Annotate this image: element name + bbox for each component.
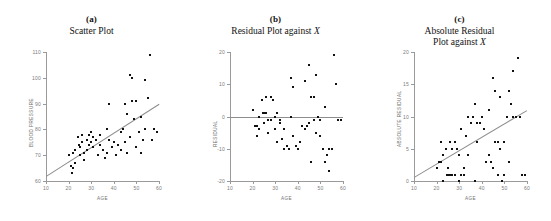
data-point <box>290 77 292 79</box>
data-point <box>440 141 442 143</box>
y-tick <box>411 84 414 85</box>
data-point <box>279 119 281 121</box>
y-tick <box>411 52 414 53</box>
data-point <box>108 139 110 141</box>
data-point <box>319 119 321 121</box>
data-point <box>472 116 474 118</box>
x-tick-label: 50 <box>313 185 327 191</box>
data-point <box>488 109 490 111</box>
data-point <box>272 99 274 101</box>
data-point <box>120 131 122 133</box>
y-tick-label: 70 <box>27 152 41 158</box>
y-tick <box>227 52 230 53</box>
data-point <box>144 79 146 81</box>
figure-scatter-residual-panels: (a)Scatter Plot6070809010011010203040506… <box>0 0 551 221</box>
y-tick-label: 20 <box>211 49 225 55</box>
data-point <box>442 154 444 156</box>
y-axis-title: RESIDUAL <box>213 120 218 147</box>
x-tick-label: 10 <box>39 185 53 191</box>
data-point <box>508 161 510 163</box>
x-tick <box>414 181 415 184</box>
data-point <box>306 125 308 127</box>
plot-area: -20-1001020102030405060 <box>230 52 343 181</box>
data-point <box>326 154 328 156</box>
data-point <box>122 128 124 130</box>
data-point <box>74 149 76 151</box>
data-point <box>456 148 458 150</box>
data-point <box>440 161 442 163</box>
data-point <box>86 139 88 141</box>
data-point <box>131 77 133 79</box>
y-tick-label: 20 <box>395 49 409 55</box>
data-point <box>492 77 494 79</box>
data-point <box>135 146 137 148</box>
data-point <box>274 116 276 118</box>
data-point <box>97 154 99 156</box>
y-tick <box>411 117 414 118</box>
x-tick <box>320 181 321 184</box>
data-point <box>317 116 319 118</box>
y-tick-label: 0 <box>395 178 409 184</box>
y-tick-label: 10 <box>211 81 225 87</box>
data-point <box>261 99 263 101</box>
x-axis-title: AGE <box>277 196 297 201</box>
data-point <box>115 154 117 156</box>
data-point <box>479 122 481 124</box>
data-point <box>72 167 74 169</box>
x-tick <box>91 181 92 184</box>
data-point <box>126 113 128 115</box>
data-point <box>331 148 333 150</box>
data-point <box>454 174 456 176</box>
data-point <box>517 57 519 59</box>
x-tick <box>504 181 505 184</box>
data-point <box>90 141 92 143</box>
data-point <box>499 148 501 150</box>
data-point <box>288 148 290 150</box>
data-point <box>292 86 294 88</box>
y-tick <box>43 104 46 105</box>
data-point <box>490 161 492 163</box>
data-point <box>328 170 330 172</box>
x-tick-label: 40 <box>475 185 489 191</box>
data-point <box>117 144 119 146</box>
x-tick-label: 60 <box>336 185 350 191</box>
x-tick-label: 50 <box>497 185 511 191</box>
x-tick <box>69 181 70 184</box>
data-point <box>71 172 73 174</box>
data-point <box>106 128 108 130</box>
data-point <box>92 146 94 148</box>
data-point <box>445 148 447 150</box>
data-point <box>470 122 472 124</box>
x-tick <box>343 181 344 184</box>
y-axis-line <box>46 52 47 181</box>
data-point <box>494 90 496 92</box>
y-tick <box>43 52 46 53</box>
data-point <box>81 134 83 136</box>
data-point <box>106 152 108 154</box>
data-point <box>499 96 501 98</box>
x-axis-line <box>414 181 527 182</box>
data-point <box>497 141 499 143</box>
data-point <box>512 70 514 72</box>
x-tick <box>230 181 231 184</box>
data-point <box>313 119 315 121</box>
y-tick-label: -20 <box>211 178 225 184</box>
data-point <box>324 106 326 108</box>
data-point <box>460 128 462 130</box>
data-point <box>99 134 101 136</box>
x-tick-label: 10 <box>407 185 421 191</box>
y-tick <box>43 155 46 156</box>
data-point <box>83 152 85 154</box>
chart-panel-a: (a)Scatter Plot6070809010011010203040506… <box>0 0 183 221</box>
data-point <box>310 161 312 163</box>
data-point <box>113 141 115 143</box>
data-point <box>290 116 292 118</box>
x-tick-label: 30 <box>268 185 282 191</box>
x-tick <box>136 181 137 184</box>
data-point <box>276 141 278 143</box>
data-point <box>265 112 267 114</box>
data-point <box>144 128 146 130</box>
data-point <box>340 119 342 121</box>
data-point <box>519 116 521 118</box>
data-point <box>492 167 494 169</box>
